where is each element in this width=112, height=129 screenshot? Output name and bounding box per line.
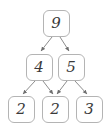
decomposition-diagram: 945223: [0, 0, 112, 129]
node-label-l2a: 2: [16, 102, 26, 117]
node-l2b[interactable]: 2: [42, 96, 69, 123]
edge-n5-to-l2b: [57, 81, 67, 94]
node-label-l3: 3: [84, 102, 94, 117]
node-label-n4: 4: [34, 60, 44, 75]
edge-n4-to-l2b: [43, 81, 53, 94]
edge-n4-to-l2a: [23, 81, 35, 94]
node-l2a[interactable]: 2: [8, 96, 35, 123]
node-label-n5: 5: [66, 60, 76, 75]
node-n9[interactable]: 9: [43, 10, 70, 37]
node-n5[interactable]: 5: [58, 54, 85, 81]
edge-n9-to-n5: [60, 37, 69, 51]
node-label-n9: 9: [51, 16, 61, 31]
edge-n9-to-n4: [41, 37, 52, 51]
edge-n5-to-l3: [75, 81, 87, 94]
node-l3[interactable]: 3: [76, 96, 103, 123]
node-n4[interactable]: 4: [26, 54, 53, 81]
node-label-l2b: 2: [50, 102, 60, 117]
